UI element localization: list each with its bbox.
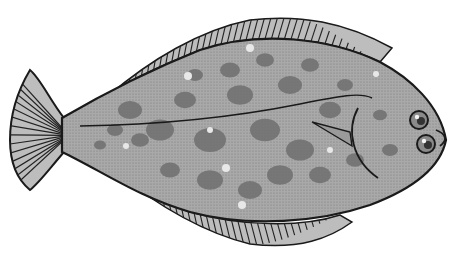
upper-eye-icon: [410, 111, 428, 129]
fish-body: [62, 39, 446, 222]
flounder-illustration: [0, 0, 462, 266]
tail-fin: [8, 68, 64, 192]
lower-eye-icon: [417, 135, 435, 153]
